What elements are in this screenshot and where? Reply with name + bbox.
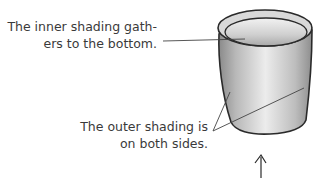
diagram-canvas: The inner shading gath- ers to the botto…	[0, 0, 317, 178]
up-arrow-icon	[255, 155, 266, 178]
inner-annotation-line1: The inner shading gath-	[0, 18, 157, 35]
inner-shading-annotation: The inner shading gath- ers to the botto…	[0, 18, 157, 52]
outer-annotation-line2: on both sides.	[70, 135, 208, 152]
outer-annotation-line1: The outer shading is	[70, 118, 208, 135]
outer-shading-annotation: The outer shading is on both sides.	[70, 118, 208, 152]
inner-annotation-line2: ers to the bottom.	[0, 35, 157, 52]
cup-inner	[225, 18, 307, 46]
